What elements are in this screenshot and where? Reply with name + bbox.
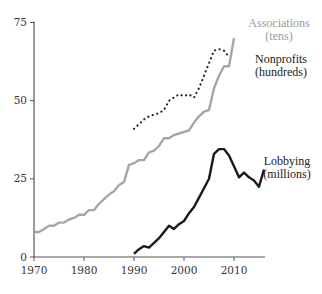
x-axis: 19701980199020002010 [21, 257, 265, 276]
x-tick-label: 2010 [221, 264, 248, 276]
x-tick-label: 1970 [21, 264, 48, 276]
x-tick-label: 1980 [71, 264, 98, 276]
x-tick-label: 1990 [121, 264, 148, 276]
y-tick-label: 25 [14, 172, 27, 184]
y-axis: 0255075 [14, 16, 34, 263]
label-nonprofits: Nonprofits [255, 52, 307, 66]
label-associations: (tens) [265, 29, 292, 43]
line-chart: 0255075 19701980199020002010 Association… [0, 0, 322, 294]
label-associations: Associations [248, 16, 310, 30]
y-tick-label: 0 [20, 251, 27, 263]
label-nonprofits: (hundreds) [255, 65, 307, 79]
series-associations-line [34, 38, 234, 232]
series-labels: Associations(tens)Nonprofits(hundreds)Lo… [248, 16, 310, 181]
y-tick-label: 50 [14, 94, 27, 106]
y-tick-label: 75 [14, 16, 27, 28]
series-lobbying-line [134, 149, 264, 254]
label-lobbying: (millions) [263, 167, 310, 181]
plot-area [34, 38, 264, 254]
x-tick-label: 2000 [171, 264, 198, 276]
label-lobbying: Lobbying [264, 154, 311, 168]
